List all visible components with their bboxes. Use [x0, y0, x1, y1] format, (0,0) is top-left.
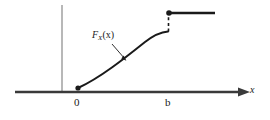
curve-function-label: FX(x) — [92, 30, 114, 42]
x-axis-label: x — [250, 85, 254, 95]
x-tick-label-origin: 0 — [74, 97, 80, 108]
x-tick-label-b: b — [165, 97, 171, 108]
cdf-plot-canvas — [0, 0, 270, 120]
x-axis-arrowhead-icon — [238, 88, 250, 97]
closed-dot-origin-marker — [75, 85, 80, 90]
cdf-figure: FX(x) 0 b x — [0, 0, 270, 120]
closed-dot-after-jump-marker — [166, 10, 172, 16]
curve-function-argument: (x) — [102, 29, 114, 40]
